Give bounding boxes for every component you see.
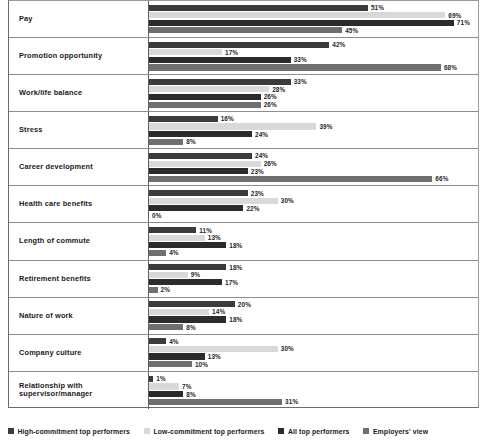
bar-line: 24% (149, 153, 478, 159)
chart-category-row: Health care benefits23%30%22%0% (9, 186, 478, 223)
bar-value-label: 13% (208, 353, 221, 360)
category-bars: 42%17%33%68% (148, 38, 478, 74)
bar-line: 26% (149, 102, 478, 108)
legend-item[interactable]: All top performers (278, 428, 349, 435)
category-bars: 1%7%8%31% (148, 372, 478, 409)
bar-value-label: 18% (229, 264, 242, 271)
category-label: Nature of work (9, 298, 148, 334)
bar-line: 13% (149, 353, 478, 359)
bar-line: 23% (149, 168, 478, 174)
chart-category-row: Relationship with supervisor/manager1%7%… (9, 372, 478, 409)
bar-2 (149, 316, 226, 322)
chart-category-row: Pay51%69%71%45% (9, 1, 478, 38)
bar-value-label: 11% (199, 227, 212, 234)
bar-value-label: 17% (225, 49, 238, 56)
category-label: Relationship with supervisor/manager (9, 372, 148, 409)
bar-3 (149, 139, 183, 145)
bar-2 (149, 391, 183, 397)
chart-plot-area: Pay51%69%71%45%Promotion opportunity42%1… (8, 0, 479, 408)
category-label: Health care benefits (9, 186, 148, 222)
bar-line: 18% (149, 242, 478, 248)
category-bars: 16%39%24%8% (148, 112, 478, 148)
legend-swatch-icon (8, 428, 14, 434)
bar-3 (149, 399, 282, 405)
bar-value-label: 69% (448, 12, 461, 19)
bar-value-label: 39% (319, 123, 332, 130)
bar-value-label: 4% (169, 249, 178, 256)
bar-line: 16% (149, 116, 478, 122)
bar-value-label: 9% (191, 271, 200, 278)
legend-item[interactable]: High-commitment top performers (8, 428, 130, 435)
bar-line: 20% (149, 301, 478, 307)
chart-category-row: Nature of work20%14%18%8% (9, 298, 478, 335)
category-bars: 23%30%22%0% (148, 186, 478, 222)
bar-0 (149, 79, 291, 85)
bar-line: 23% (149, 190, 478, 196)
category-label: Company culture (9, 335, 148, 371)
bar-value-label: 26% (264, 93, 277, 100)
bar-value-label: 20% (238, 301, 251, 308)
bar-2 (149, 168, 248, 174)
bar-value-label: 33% (294, 56, 307, 63)
bar-1 (149, 161, 261, 167)
bar-0 (149, 301, 235, 307)
bar-line: 14% (149, 309, 478, 315)
bar-1 (149, 12, 445, 18)
bar-value-label: 30% (281, 345, 294, 352)
bar-line: 68% (149, 64, 478, 70)
legend-label: High-commitment top performers (18, 428, 131, 435)
bar-2 (149, 131, 252, 137)
bar-2 (149, 205, 243, 211)
category-label: Length of commute (9, 223, 148, 259)
bar-value-label: 31% (285, 398, 298, 405)
bar-0 (149, 227, 196, 233)
bar-value-label: 66% (435, 175, 448, 182)
bar-line: 22% (149, 205, 478, 211)
bar-3 (149, 287, 158, 293)
bar-0 (149, 264, 226, 270)
bar-value-label: 2% (161, 286, 170, 293)
bar-0 (149, 190, 248, 196)
category-label: Career development (9, 149, 148, 185)
bar-line: 26% (149, 94, 478, 100)
bar-line: 2% (149, 287, 478, 293)
legend-item[interactable]: Employers' view (363, 428, 428, 435)
bar-3 (149, 176, 432, 182)
bar-value-label: 42% (332, 41, 345, 48)
bar-3 (149, 250, 166, 256)
bar-line: 33% (149, 79, 478, 85)
bar-line: 8% (149, 324, 478, 330)
bar-line: 71% (149, 20, 478, 26)
bar-1 (149, 86, 269, 92)
bar-line: 26% (149, 161, 478, 167)
bar-value-label: 28% (272, 86, 285, 93)
chart-category-row: Retirement benefits18%9%17%2% (9, 261, 478, 298)
bar-value-label: 26% (264, 101, 277, 108)
bar-value-label: 16% (221, 115, 234, 122)
legend-swatch-icon (278, 428, 284, 434)
category-bars: 33%28%26%26% (148, 75, 478, 111)
bar-line: 10% (149, 361, 478, 367)
bar-value-label: 68% (444, 64, 457, 71)
legend-item[interactable]: Low-commitment top performers (144, 428, 264, 435)
bar-value-label: 22% (246, 205, 259, 212)
bar-1 (149, 272, 188, 278)
bar-line: 8% (149, 139, 478, 145)
bar-value-label: 71% (457, 19, 470, 26)
bar-value-label: 18% (229, 316, 242, 323)
bar-line: 31% (149, 399, 478, 405)
bar-value-label: 18% (229, 242, 242, 249)
bar-line: 17% (149, 49, 478, 55)
bar-line: 51% (149, 5, 478, 11)
bar-1 (149, 123, 316, 129)
bar-3 (149, 102, 261, 108)
bar-3 (149, 361, 192, 367)
legend-swatch-icon (144, 428, 150, 434)
bar-value-label: 24% (255, 131, 268, 138)
bar-value-label: 0% (152, 212, 161, 219)
bar-line: 8% (149, 391, 478, 397)
bar-value-label: 23% (251, 168, 264, 175)
bar-0 (149, 376, 153, 382)
bar-3 (149, 324, 183, 330)
bar-line: 45% (149, 27, 478, 33)
